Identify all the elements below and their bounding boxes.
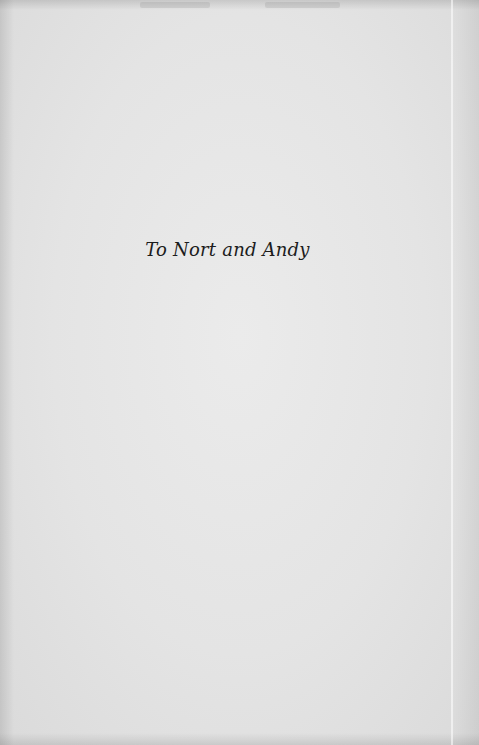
bleed-through-mark bbox=[265, 2, 340, 8]
dedication-text: To Nort and Andy bbox=[0, 238, 479, 262]
page-edge-line bbox=[451, 0, 453, 745]
book-page: To Nort and Andy bbox=[0, 0, 479, 745]
bleed-through-mark bbox=[140, 2, 210, 8]
